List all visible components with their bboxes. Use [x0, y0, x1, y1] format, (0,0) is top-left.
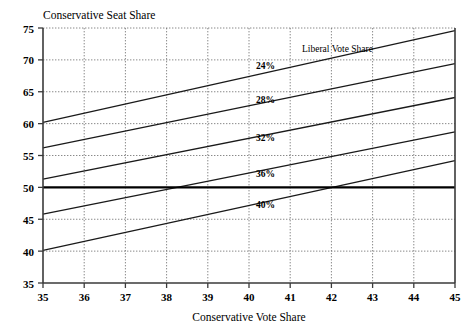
chart-figure: 75 70 65 60 55 50 45 40 35 35 36 37 38 3…: [0, 0, 473, 330]
x-tick-label: 38: [161, 291, 173, 303]
series-label-32: 32%: [256, 133, 275, 143]
x-tick-label: 42: [326, 291, 338, 303]
y-tick-label: 55: [23, 150, 35, 162]
series-label-40: 40%: [256, 200, 275, 210]
x-axis-title: Conservative Vote Share: [192, 311, 305, 323]
x-tick-label: 41: [285, 291, 296, 303]
x-tick-label: 45: [450, 291, 462, 303]
x-tick-label: 35: [38, 291, 50, 303]
y-tick-label: 35: [23, 278, 35, 290]
y-axis-title: Conservative Seat Share: [43, 9, 155, 21]
x-tick-label: 43: [367, 291, 379, 303]
y-tick-label: 65: [23, 86, 35, 98]
y-tick-label: 40: [23, 246, 35, 258]
y-tick-label: 45: [23, 214, 35, 226]
y-tick-label: 50: [23, 182, 35, 194]
series-label-36: 36%: [256, 169, 275, 179]
x-tick-label: 39: [202, 291, 214, 303]
line-chart-svg: 75 70 65 60 55 50 45 40 35 35 36 37 38 3…: [0, 0, 473, 330]
y-tick-label: 70: [23, 54, 35, 66]
x-tick-label: 37: [120, 291, 132, 303]
x-tick-label: 40: [244, 291, 256, 303]
series-label-24: 24%: [256, 61, 275, 71]
y-tick-label: 60: [23, 118, 35, 130]
x-tick-label: 44: [408, 291, 420, 303]
series-label-28: 28%: [256, 95, 275, 105]
y-tick-label: 75: [23, 23, 35, 35]
x-tick-label: 36: [79, 291, 91, 303]
x-tick-labels: 35 36 37 38 39 40 41 42 43 44 45: [38, 291, 462, 303]
legend-title: Liberal Vote Share: [302, 44, 373, 54]
y-tick-labels: 75 70 65 60 55 50 45 40 35: [23, 23, 35, 290]
